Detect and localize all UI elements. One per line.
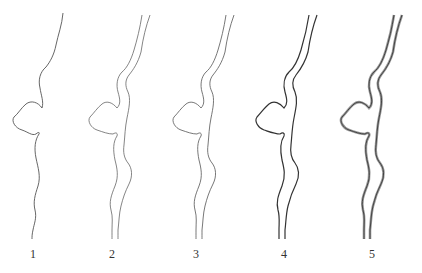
panel-4-label: 4 <box>274 247 294 262</box>
panel-2-label: 2 <box>102 247 122 262</box>
panel-4-river <box>256 15 317 239</box>
panel-3-river <box>173 15 234 239</box>
panel-3-label: 3 <box>186 247 206 262</box>
panel-5-river <box>341 15 402 239</box>
river-stages-diagram <box>0 0 422 273</box>
panel-5-label: 5 <box>362 247 382 262</box>
panel-1-label: 1 <box>23 247 43 262</box>
panel-1-river <box>13 13 63 239</box>
panel-2-river <box>89 15 150 239</box>
